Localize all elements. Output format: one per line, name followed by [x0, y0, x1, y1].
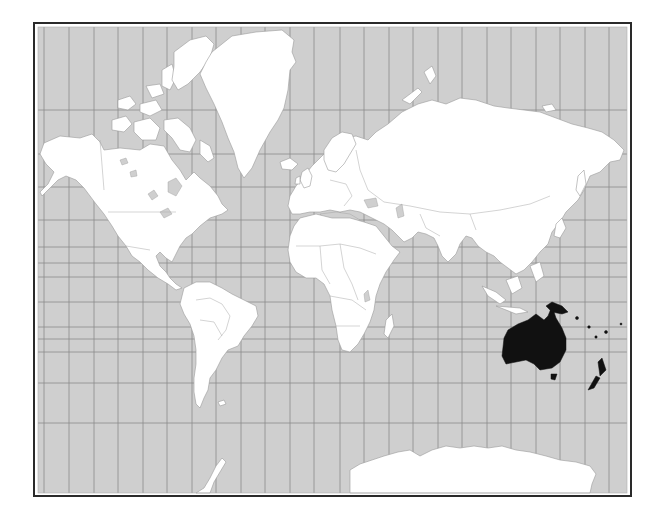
- solomon-islands: [576, 317, 579, 320]
- new-caledonia: [595, 336, 597, 338]
- world-map: [0, 0, 665, 529]
- fiji: [605, 331, 608, 334]
- samoa: [620, 323, 622, 325]
- vanuatu: [588, 326, 591, 329]
